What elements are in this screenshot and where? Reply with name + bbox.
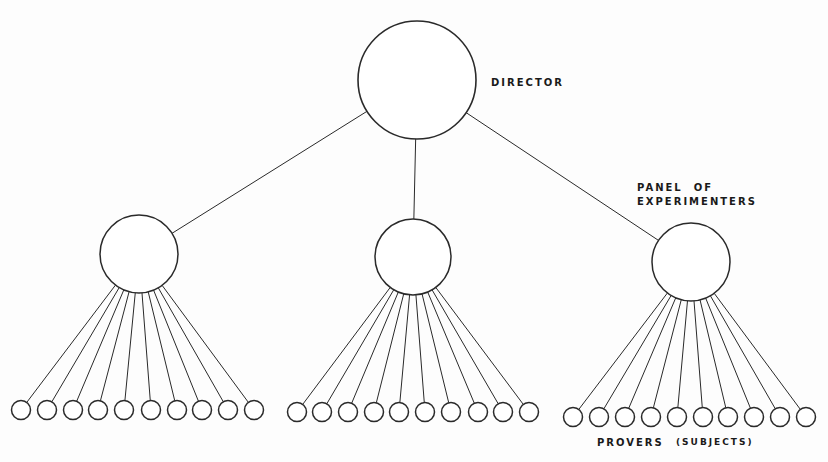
experimenter-to-prover-line xyxy=(125,293,135,401)
prover-node xyxy=(168,401,187,420)
experimenter-to-prover-line xyxy=(148,292,175,401)
prover-node xyxy=(390,403,409,422)
prover-node xyxy=(719,408,738,427)
prover-node xyxy=(219,401,238,420)
prover-node xyxy=(193,401,212,420)
experimenter-to-prover-line xyxy=(52,288,119,402)
experimenter-node-3 xyxy=(652,223,730,301)
experimenter-to-prover-line xyxy=(604,296,671,409)
experimenter-to-prover-line xyxy=(77,290,124,401)
prover-node xyxy=(616,408,635,427)
prover-node xyxy=(12,401,31,420)
experimenter-to-prover-line xyxy=(100,292,129,401)
experimenter-to-prover-line xyxy=(416,295,424,403)
prover-node xyxy=(771,408,790,427)
prover-node xyxy=(694,408,713,427)
prover-node xyxy=(115,401,134,420)
panel-label-line1: PANEL OF xyxy=(637,182,713,193)
prover-node xyxy=(442,403,461,422)
prover-node xyxy=(89,401,108,420)
experimenter-to-prover-line xyxy=(678,301,688,408)
experimenter-to-prover-line xyxy=(579,293,668,409)
prover-node xyxy=(365,403,384,422)
subjects-label: (SUBJECTS) xyxy=(676,437,754,447)
experimenter-to-prover-line xyxy=(27,285,116,402)
hierarchy-diagram: DIRECTOR PANEL OF EXPERIMENTERS PROVERS … xyxy=(0,0,828,462)
provers-label: PROVERS xyxy=(597,437,664,448)
diagram-canvas xyxy=(0,0,828,462)
prover-node xyxy=(590,408,609,427)
prover-node xyxy=(642,408,661,427)
director-to-experimenter-line-3 xyxy=(466,113,658,241)
experimenter-to-prover-line xyxy=(694,301,702,408)
experimenter-to-prover-line xyxy=(436,287,524,404)
prover-node xyxy=(416,403,435,422)
prover-node xyxy=(668,408,687,427)
experimenter-node-2 xyxy=(375,219,451,295)
prover-node xyxy=(520,403,539,422)
prover-node xyxy=(38,401,57,420)
experimenter-to-prover-line xyxy=(352,292,399,403)
experimenter-to-prover-line xyxy=(376,294,403,403)
director-label: DIRECTOR xyxy=(491,77,564,88)
prover-node xyxy=(797,408,816,427)
prover-node xyxy=(245,401,264,420)
experimenter-node-1 xyxy=(100,215,178,293)
experimenter-to-prover-line xyxy=(629,298,676,408)
prover-node xyxy=(339,403,358,422)
director-node xyxy=(358,21,476,139)
experimenter-to-prover-line xyxy=(327,290,394,404)
experimenter-to-prover-line xyxy=(303,287,391,404)
panel-label-line2: EXPERIMENTERS xyxy=(637,196,757,207)
prover-node xyxy=(142,401,161,420)
experimenter-to-prover-line xyxy=(428,292,475,403)
director-to-experimenter-line-1 xyxy=(172,111,367,233)
experimenter-to-prover-line xyxy=(400,295,410,403)
prover-node xyxy=(288,403,307,422)
experimenter-to-prover-line xyxy=(142,293,150,401)
prover-node xyxy=(64,401,83,420)
prover-node xyxy=(313,403,332,422)
prover-node xyxy=(469,403,488,422)
prover-node xyxy=(745,408,764,427)
experimenter-to-prover-line xyxy=(710,296,775,409)
experimenter-to-prover-line xyxy=(432,290,498,404)
prover-node xyxy=(564,408,583,427)
prover-node xyxy=(494,403,513,422)
director-to-experimenter-line-2 xyxy=(414,139,416,219)
experimenter-to-prover-line xyxy=(158,288,223,402)
experimenter-to-prover-line xyxy=(653,300,681,408)
